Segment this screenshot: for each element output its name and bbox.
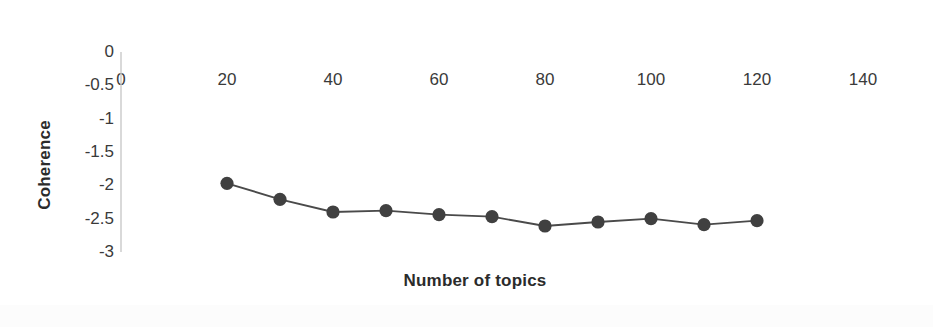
data-point-marker: 70, -2.47 (485, 210, 498, 223)
data-point-marker: 60, -2.44 (432, 208, 445, 221)
data-point-marker: 40, -2.4 (326, 205, 339, 218)
scan-artifact-strip (0, 305, 933, 327)
data-point-marker: 100, -2.5 (644, 212, 657, 225)
data-point-marker: 30, -2.21 (273, 193, 286, 206)
data-point-marker: 90, -2.55 (591, 215, 604, 228)
x-axis-title: Number of topics (404, 271, 547, 291)
data-point-marker: 110, -2.59 (697, 218, 710, 231)
data-point-marker: 80, -2.61 (538, 219, 551, 232)
data-point-marker: 20, -1.97 (220, 177, 233, 190)
coherence-vs-topics-chart: Coherence 0-0.5-1-1.5-2-2.5-3 0204060801… (0, 0, 933, 327)
data-point-marker: 50, -2.38 (379, 204, 392, 217)
coherence-series: 20, -1.9730, -2.2140, -2.450, -2.3860, -… (220, 177, 763, 233)
data-point-marker: 120, -2.53 (750, 214, 763, 227)
